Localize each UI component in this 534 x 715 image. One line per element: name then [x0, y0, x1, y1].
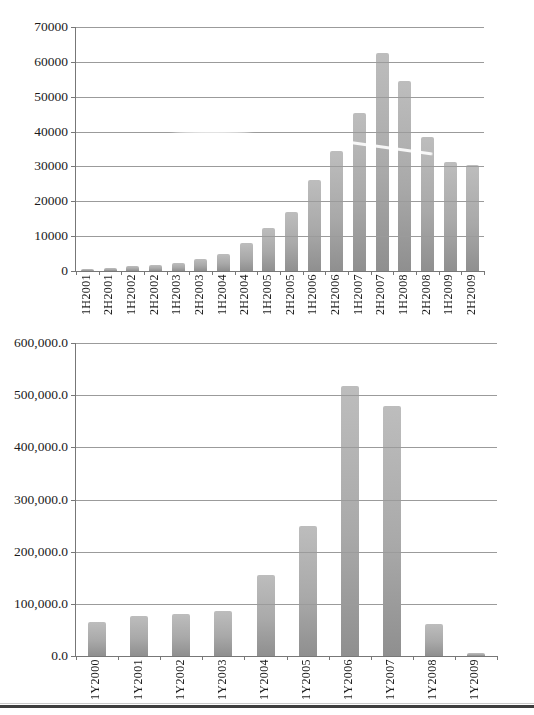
x-label-cell: 1Y2006: [328, 659, 370, 707]
bar-1H2006: [308, 180, 321, 271]
gridline-70000: [76, 27, 484, 28]
y-axis-label: 100,000.0: [0, 596, 68, 612]
x-label-cell: 1H2006: [302, 274, 325, 324]
x-axis-label: 2H2002: [148, 274, 161, 315]
bar-1H2004: [217, 254, 230, 271]
x-label-cell: 2H2005: [279, 274, 302, 324]
gridline-100000: [76, 604, 497, 605]
scan-artifact-gridline-whiteout: [172, 125, 252, 134]
x-label-cell: 1H2004: [211, 274, 234, 324]
gridline-60000: [76, 62, 484, 63]
bar-2H2003: [194, 259, 207, 271]
x-axis-label: 1Y2003: [216, 659, 229, 700]
bar-2H2001: [104, 268, 117, 271]
x-axis-label: 1H2007: [352, 274, 365, 315]
x-axis-label: 1Y2004: [258, 659, 271, 700]
bar-1H2007: [353, 113, 366, 271]
bar-1H2009: [444, 162, 457, 271]
x-label-cell: 1H2003: [166, 274, 189, 324]
x-label-cell: 1Y2008: [412, 659, 454, 707]
bar-1Y2000: [88, 622, 106, 656]
x-label-cell: 1H2009: [438, 274, 461, 324]
x-label-cell: 1Y2007: [370, 659, 412, 707]
gridline-50000: [76, 97, 484, 98]
x-label-cell: 2H2007: [370, 274, 393, 324]
annual-bar-chart: 0.0100,000.0200,000.0300,000.0400,000.05…: [0, 0, 534, 715]
x-label-cell: 1Y2009: [454, 659, 496, 707]
bar-1Y2007: [383, 406, 401, 656]
x-axis-label: 1H2005: [261, 274, 274, 315]
x-label-cell: 1Y2005: [285, 659, 327, 707]
x-label-cell: 1H2002: [120, 274, 143, 324]
x-label-cell: 2H2009: [460, 274, 483, 324]
x-axis-label: 1H2008: [397, 274, 410, 315]
bar-1Y2006: [341, 386, 359, 656]
bar-2H2009: [466, 165, 479, 271]
x-label-cell: 1Y2000: [75, 659, 117, 707]
x-label-cell: 2H2001: [98, 274, 121, 324]
x-axis-label: 1H2003: [170, 274, 183, 315]
plot-area: [75, 343, 497, 657]
x-label-cell: 2H2004: [234, 274, 257, 324]
bar-1Y2008: [425, 624, 443, 656]
bar-2H2006: [330, 151, 343, 271]
x-axis-label: 2H2006: [329, 274, 342, 315]
x-axis-labels: 1Y20001Y20011Y20021Y20031Y20041Y20051Y20…: [75, 659, 496, 707]
y-axis-label: 0.0: [0, 648, 68, 664]
y-axis-label: 500,000.0: [0, 387, 68, 403]
x-axis-label: 1H2004: [216, 274, 229, 315]
bar-1H2001: [81, 269, 94, 271]
x-axis-label: 1Y2001: [132, 659, 145, 700]
x-axis-tick: [497, 656, 498, 660]
x-axis-label: 1Y2007: [384, 659, 397, 700]
x-label-cell: 1Y2003: [201, 659, 243, 707]
x-axis-label: 1Y2002: [174, 659, 187, 700]
y-axis-label: 300,000.0: [0, 492, 68, 508]
bar-1H2008: [398, 81, 411, 271]
x-axis-label: 1H2002: [125, 274, 138, 315]
bar-1Y2003: [214, 611, 232, 656]
bar-1H2002: [126, 266, 139, 271]
y-axis-label: 200,000.0: [0, 544, 68, 560]
gridline-400000: [76, 447, 497, 448]
gridline-500000: [76, 395, 497, 396]
scanned-chart-page: 0100002000030000400005000060000700001H20…: [0, 0, 534, 715]
x-label-cell: 1H2007: [347, 274, 370, 324]
y-axis-label: 400,000.0: [0, 439, 68, 455]
bar-1Y2002: [172, 614, 190, 656]
x-axis-labels: 1H20012H20011H20022H20021H20032H20031H20…: [75, 274, 483, 324]
gridline-30000: [76, 166, 484, 167]
x-label-cell: 2H2008: [415, 274, 438, 324]
x-axis-label: 2H2001: [102, 274, 115, 315]
x-axis-label: 2H2004: [238, 274, 251, 315]
x-label-cell: 1Y2004: [243, 659, 285, 707]
x-axis-label: 1Y2008: [426, 659, 439, 700]
bar-2H2007: [376, 53, 389, 271]
x-label-cell: 2H2006: [324, 274, 347, 324]
gridline-300000: [76, 500, 497, 501]
x-axis-label: 2H2003: [193, 274, 206, 315]
bar-1Y2009: [467, 653, 485, 656]
x-axis-label: 2H2005: [284, 274, 297, 315]
x-axis-label: 1H2006: [306, 274, 319, 315]
x-axis-label: 1H2001: [80, 274, 93, 315]
x-label-cell: 1H2008: [392, 274, 415, 324]
gridline-40000: [76, 132, 484, 133]
y-axis-label: 600,000.0: [0, 335, 68, 351]
x-label-cell: 1Y2001: [117, 659, 159, 707]
bar-2H2008: [421, 137, 434, 271]
bar-1Y2001: [130, 616, 148, 656]
x-axis-label: 2H2007: [374, 274, 387, 315]
x-axis-label: 1Y2005: [300, 659, 313, 700]
bar-1H2003: [172, 263, 185, 271]
x-axis-label: 1Y2006: [342, 659, 355, 700]
x-axis-label: 1H2009: [442, 274, 455, 315]
gridline-600000: [76, 343, 497, 344]
x-axis-label: 1Y2009: [468, 659, 481, 700]
x-axis-label: 2H2009: [465, 274, 478, 315]
x-label-cell: 1Y2002: [159, 659, 201, 707]
x-axis-label: 1Y2000: [89, 659, 102, 700]
bar-2H2005: [285, 212, 298, 271]
bar-1H2005: [262, 228, 275, 271]
gridline-10000: [76, 236, 484, 237]
